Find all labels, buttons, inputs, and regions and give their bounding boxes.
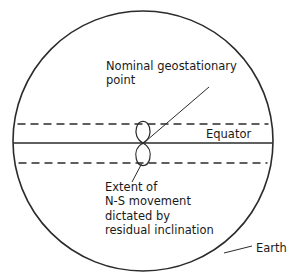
leader-line-nominal-point xyxy=(143,87,210,144)
leader-line-earth xyxy=(224,246,252,253)
label-earth: Earth xyxy=(256,241,287,255)
label-nominal-geostationary-point: Nominal geostationary point xyxy=(106,59,237,88)
label-extent-of-ns-movement: Extent of N-S movement dictated by resid… xyxy=(105,180,214,237)
label-equator: Equator xyxy=(206,127,251,141)
geostationary-orbit-diagram: Nominal geostationary point Extent of N-… xyxy=(0,0,295,277)
